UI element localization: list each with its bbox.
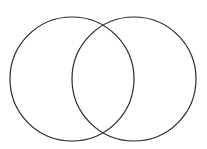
venn-diagram (0, 0, 207, 149)
